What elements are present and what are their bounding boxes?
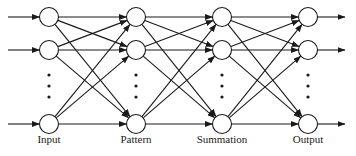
ellipsis-dot — [47, 73, 50, 76]
node-summation — [213, 115, 232, 134]
ellipsis-dot — [47, 84, 50, 87]
ellipsis-dot — [47, 95, 50, 98]
layer-label-summation: Summation — [197, 133, 248, 145]
node-output — [299, 41, 318, 60]
node-input — [40, 8, 59, 27]
node-pattern — [127, 115, 146, 134]
node-summation — [213, 8, 232, 27]
ellipsis-dot — [220, 95, 223, 98]
ellipsis-dot — [134, 73, 137, 76]
ellipsis-dot — [306, 95, 309, 98]
layer-label-pattern: Pattern — [120, 133, 152, 145]
ellipsis-dot — [306, 84, 309, 87]
node-output — [299, 115, 318, 134]
node-input — [40, 115, 59, 134]
neural-network-diagram: Input Pattern Summation Output — [0, 0, 356, 156]
node-input — [40, 41, 59, 60]
ellipsis-dot — [134, 84, 137, 87]
node-output — [299, 8, 318, 27]
ellipsis-dot — [134, 95, 137, 98]
layer-labels: Input Pattern Summation Output — [37, 133, 323, 145]
ellipsis-dot — [220, 84, 223, 87]
node-pattern — [127, 8, 146, 27]
layer-label-input: Input — [37, 133, 60, 145]
layer-label-output: Output — [293, 133, 324, 145]
ellipsis-dot — [306, 73, 309, 76]
node-summation — [213, 41, 232, 60]
node-pattern — [127, 41, 146, 60]
ellipsis-dot — [220, 73, 223, 76]
connections — [8, 17, 345, 124]
